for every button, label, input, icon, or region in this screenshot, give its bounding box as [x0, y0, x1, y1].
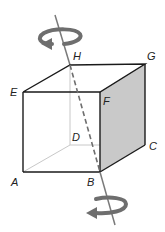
rotation-axis-dashed: [70, 65, 100, 172]
vertex-label-C: C: [149, 140, 157, 152]
vertex-label-B: B: [87, 176, 94, 188]
vertex-label-E: E: [10, 86, 18, 98]
rotation-arrow-bottom-icon: [86, 198, 126, 219]
vertex-label-A: A: [10, 176, 18, 188]
vertex-label-D: D: [72, 131, 80, 143]
vertex-label-H: H: [73, 50, 81, 62]
cube-diagram: H G E F D C A B: [0, 0, 165, 232]
hidden-edge-DA: [23, 145, 70, 172]
shaded-face-FGCB: [100, 64, 145, 172]
vertex-label-G: G: [147, 50, 156, 62]
rotation-axis-top: [55, 15, 70, 65]
